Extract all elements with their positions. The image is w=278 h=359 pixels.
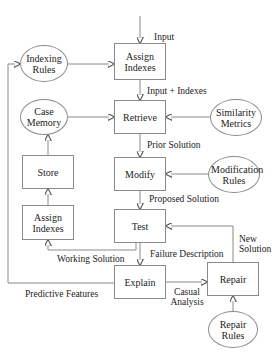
case-memory-label: Case Memory: [24, 106, 64, 128]
prior-solution-label: Prior Solution: [147, 140, 201, 150]
repair-label: Repair: [220, 274, 247, 285]
failure-description-label: Failure Description: [150, 249, 224, 259]
working-solution-label: Working Solution: [57, 254, 125, 264]
indexing-rules-label: Indexing Rules: [24, 53, 64, 75]
new-solution-label-line1: New: [239, 234, 257, 244]
casual-analysis-label-line2: Analysis: [170, 297, 204, 307]
modify-box: Modify: [114, 157, 166, 191]
explain-label: Explain: [124, 277, 155, 288]
retrieve-box: Retrieve: [114, 100, 166, 134]
similarity-metrics-ellipse: Similarity Metrics: [210, 99, 262, 136]
case-memory-ellipse: Case Memory: [20, 99, 68, 135]
store-box: Store: [22, 155, 74, 189]
store-label: Store: [37, 167, 58, 178]
assign-indexes-store-box: Assign Indexes: [22, 205, 74, 240]
similarity-metrics-label: Similarity Metrics: [213, 107, 259, 129]
indexing-rules-ellipse: Indexing Rules: [20, 45, 68, 82]
modification-rules-label: Modification Rules: [211, 164, 257, 186]
modification-rules-ellipse: Modification Rules: [208, 156, 260, 193]
proposed-solution-label: Proposed Solution: [149, 194, 219, 204]
retrieve-label: Retrieve: [123, 112, 157, 123]
explain-box: Explain: [114, 265, 166, 299]
input-label: Input: [154, 32, 174, 42]
input-indexes-label: Input + Indexes: [147, 86, 207, 96]
repair-rules-ellipse: Repair Rules: [208, 311, 258, 348]
assign-indexes-box: Assign Indexes: [114, 43, 166, 80]
assign-indexes-label: Assign Indexes: [120, 51, 160, 73]
predictive-features-label: Predictive Features: [25, 289, 98, 299]
test-label: Test: [132, 221, 149, 232]
modify-label: Modify: [125, 169, 155, 180]
casual-analysis-label-line1: Casual: [172, 287, 202, 297]
repair-box: Repair: [207, 262, 259, 296]
assign-indexes-store-label: Assign Indexes: [28, 212, 68, 234]
new-solution-label-line2: Solution: [239, 244, 271, 254]
test-box: Test: [114, 209, 166, 243]
repair-rules-label: Repair Rules: [213, 319, 253, 341]
